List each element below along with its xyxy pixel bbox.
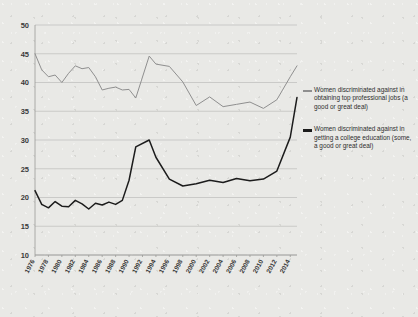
gridlines: [35, 25, 297, 255]
series-line: [35, 97, 297, 209]
legend-item-professional-jobs[interactable]: Women discriminated against in obtaining…: [303, 86, 415, 111]
y-tick-label: 20: [21, 193, 29, 202]
x-tick-label: 1994: [144, 258, 157, 274]
x-tick-label: 1980: [50, 258, 63, 274]
legend-swatch-icon: [303, 90, 312, 92]
x-tick-label: 1982: [63, 258, 76, 274]
legend-item-label: Women discriminated against in obtaining…: [314, 86, 415, 111]
y-tick-label: 25: [21, 165, 29, 174]
x-tick-label: 2014: [278, 258, 291, 274]
x-tick-label: 1998: [171, 258, 184, 274]
x-tick-label: 2010: [251, 258, 264, 274]
x-tick-label: 1976: [23, 258, 36, 274]
x-tick-label: 2000: [184, 258, 197, 274]
x-axis-ticks: 1976197819801982198419861988199019921994…: [23, 255, 291, 274]
legend-item-label: Women discriminated against in getting a…: [314, 125, 415, 150]
x-tick-label: 1992: [130, 258, 143, 274]
x-tick-label: 1986: [90, 258, 103, 274]
y-tick-label: 10: [21, 251, 29, 260]
series-line: [35, 54, 297, 109]
x-tick-label: 1990: [117, 258, 130, 274]
data-series-group: [35, 54, 297, 209]
legend-swatch-icon: [303, 129, 312, 131]
x-tick-label: 1984: [77, 258, 90, 274]
y-tick-label: 45: [21, 50, 29, 59]
y-tick-label: 35: [21, 107, 29, 116]
x-tick-label: 2006: [224, 258, 237, 274]
x-tick-label: 2012: [265, 258, 278, 274]
y-axis-ticks: 101520253035404550: [21, 21, 29, 260]
chart-legend: Women discriminated against in obtaining…: [303, 86, 415, 164]
y-tick-label: 50: [21, 21, 29, 30]
x-tick-label: 1978: [36, 258, 49, 274]
legend-item-college-education[interactable]: Women discriminated against in getting a…: [303, 125, 415, 150]
x-tick-label: 1996: [157, 258, 170, 274]
x-tick-label: 2002: [198, 258, 211, 274]
x-tick-label: 2008: [238, 258, 251, 274]
y-tick-label: 15: [21, 222, 29, 231]
y-tick-label: 40: [21, 78, 29, 87]
line-chart: 101520253035404550 197619781980198219841…: [0, 0, 418, 317]
y-tick-label: 30: [21, 136, 29, 145]
x-tick-label: 1988: [104, 258, 117, 274]
x-tick-label: 2004: [211, 258, 224, 274]
